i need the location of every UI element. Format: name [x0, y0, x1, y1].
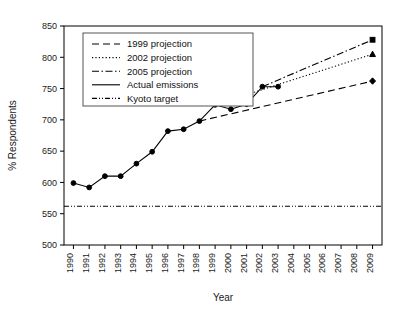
x-tick-label: 2009	[365, 253, 375, 273]
y-tick-label: 500	[42, 240, 57, 250]
legend-label: Kyoto target	[127, 93, 179, 104]
series-2005-projection	[262, 37, 375, 86]
data-point-marker	[134, 161, 139, 166]
x-axis-ticks: 1990199119921993199419951996199719981999…	[65, 245, 374, 273]
x-tick-label: 1993	[113, 253, 123, 273]
data-point-marker	[228, 107, 233, 112]
y-axis-title: % Respondents	[7, 100, 18, 171]
data-point-marker	[103, 174, 108, 179]
x-tick-label: 1996	[160, 253, 170, 273]
x-tick-label: 2003	[270, 253, 280, 273]
y-tick-label: 600	[42, 178, 57, 188]
y-tick-label: 700	[42, 115, 57, 125]
data-point-marker	[370, 37, 375, 42]
x-tick-label: 2002	[254, 253, 264, 273]
x-tick-label: 1997	[176, 253, 186, 273]
y-tick-label: 550	[42, 209, 57, 219]
chart-legend: 1999 projection2002 projection2005 proje…	[83, 33, 253, 106]
x-tick-label: 2008	[349, 253, 359, 273]
data-point-marker	[197, 119, 202, 124]
x-tick-label: 2004	[286, 253, 296, 273]
chart-container: 500550600650700750800850 199019911992199…	[0, 0, 398, 320]
y-tick-label: 850	[42, 21, 57, 31]
y-tick-label: 650	[42, 146, 57, 156]
x-tick-label: 1994	[128, 253, 138, 273]
data-point-marker	[150, 149, 155, 154]
x-tick-label: 1991	[81, 253, 91, 273]
data-point-marker	[166, 129, 171, 134]
x-tick-label: 1998	[191, 253, 201, 273]
y-tick-label: 750	[42, 84, 57, 94]
data-point-marker	[276, 84, 281, 89]
x-tick-label: 1999	[207, 253, 217, 273]
x-tick-label: 2006	[317, 253, 327, 273]
legend-label: 2005 projection	[127, 66, 192, 77]
x-tick-label: 2005	[302, 253, 312, 273]
data-point-marker	[118, 174, 123, 179]
data-point-marker	[181, 127, 186, 132]
data-point-marker	[370, 78, 376, 84]
x-tick-label: 2000	[223, 253, 233, 273]
series-path	[262, 40, 372, 87]
line-chart: 500550600650700750800850 199019911992199…	[0, 0, 398, 320]
data-point-marker	[370, 51, 376, 56]
x-tick-label: 2001	[239, 253, 249, 273]
legend-label: Actual emissions	[127, 79, 199, 90]
x-tick-label: 1995	[144, 253, 154, 273]
data-point-marker	[87, 185, 92, 190]
data-point-marker	[260, 84, 265, 89]
x-tick-label: 1992	[97, 253, 107, 273]
x-axis-title: Year	[213, 292, 234, 303]
x-tick-label: 1990	[65, 253, 75, 273]
y-tick-label: 800	[42, 53, 57, 63]
data-point-marker	[71, 181, 76, 186]
legend-label: 1999 projection	[127, 38, 192, 49]
legend-label: 2002 projection	[127, 52, 192, 63]
y-axis-ticks: 500550600650700750800850	[42, 21, 64, 250]
x-tick-label: 2007	[333, 253, 343, 273]
